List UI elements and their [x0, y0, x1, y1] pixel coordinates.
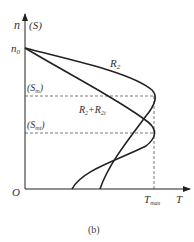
r2-plus-r2t-curve-label: R2+R2t	[78, 104, 106, 116]
sm-label: (Sm)	[27, 82, 44, 94]
tmax-label: Tmax	[144, 193, 160, 206]
n0-label: n0	[11, 42, 21, 56]
r2-curve-label: R2	[109, 57, 121, 71]
origin-label: O	[12, 186, 20, 198]
smt-label: (Smt)	[27, 119, 45, 131]
torque-speed-diagram: n (S) n0 (Sm) (Smt) R2 R2+R2t O Tmax T (…	[0, 0, 194, 242]
y-axis-label: n	[14, 18, 20, 32]
x-axis-label: T	[176, 193, 183, 205]
y-axis-label-alt: (S)	[29, 19, 42, 32]
figure-caption: (b)	[88, 224, 100, 236]
